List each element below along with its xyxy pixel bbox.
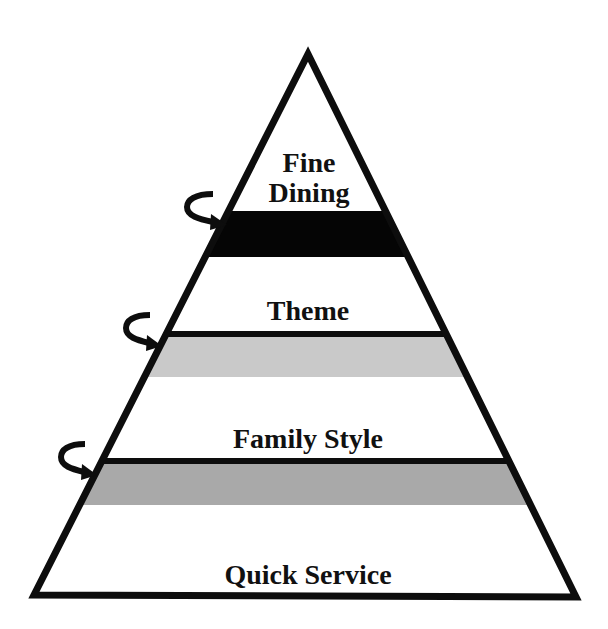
pyramid-diagram: Fine Dining Theme Family Style Quick Ser… [0, 0, 608, 629]
tier-label-theme: Theme [267, 295, 349, 326]
separator-theme [165, 331, 449, 337]
tier-label-fine-dining-line1: Fine [283, 147, 336, 178]
pyramid-svg: Fine Dining Theme Family Style Quick Ser… [0, 0, 608, 629]
tier-label-quick-service: Quick Service [224, 559, 391, 590]
band-theme [144, 337, 469, 377]
tier-label-fine-dining-line2: Dining [269, 177, 350, 208]
band-fine-dining [205, 211, 410, 257]
separator-family-style [101, 458, 512, 464]
tier-label-family-style: Family Style [233, 423, 383, 454]
band-family-style [80, 464, 533, 505]
